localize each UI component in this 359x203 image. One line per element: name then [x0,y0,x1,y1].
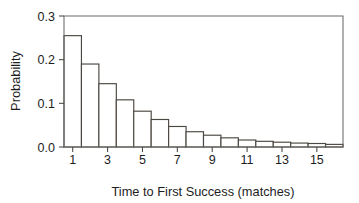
y-tick-label: 0.0 [38,141,55,155]
histogram-bar [64,36,81,147]
y-axis-title: Probability [8,51,23,111]
x-tick-label: 5 [139,153,146,167]
x-tick-label: 7 [174,153,181,167]
histogram-bar [221,138,238,147]
x-tick-label: 11 [241,153,254,167]
x-tick-label: 13 [275,153,289,167]
histogram-bar [151,119,168,147]
histogram-plot: 0.00.10.20.3 13579111315 Time to First S… [0,0,359,203]
histogram-bar [134,111,151,147]
x-tick-label: 9 [209,153,216,167]
histogram-bar [256,141,273,147]
histogram-bar [99,84,116,147]
histogram-bar [273,142,290,147]
histogram-bar [169,126,186,147]
histogram-bar [238,140,255,147]
x-axis-title: Time to First Success (matches) [112,184,295,199]
x-tick-label: 15 [310,153,324,167]
x-tick-label: 3 [104,153,111,167]
histogram-bar [186,132,203,147]
y-tick-label: 0.2 [38,53,55,67]
histogram-bar [204,135,221,147]
y-tick-label: 0.1 [38,97,55,111]
histogram-bar [116,100,133,147]
histogram-bar [81,64,98,147]
chart-figure: 0.00.10.20.3 13579111315 Time to First S… [0,0,359,203]
histogram-bar [291,143,308,147]
x-tick-label: 1 [69,153,76,167]
y-tick-label: 0.3 [38,10,55,24]
